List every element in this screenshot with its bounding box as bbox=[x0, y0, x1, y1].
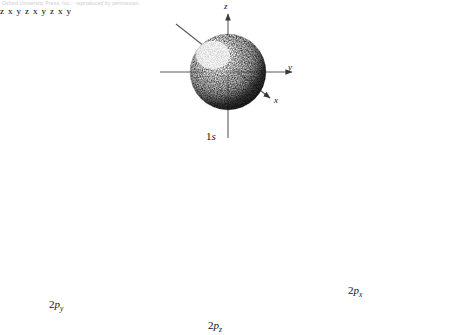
axis-label-x-1s: x bbox=[273, 95, 278, 105]
orbital-label-2pz: 2pz bbox=[208, 320, 222, 334]
orbital-label-1s: 1s bbox=[206, 131, 216, 142]
orbital-label-2py: 2py bbox=[49, 299, 63, 313]
orbital-label-2px: 2px bbox=[348, 285, 362, 299]
orbital-figure: y x z bbox=[0, 0, 450, 335]
electron-cloud-1s bbox=[190, 34, 266, 110]
orbital-1s: y x z bbox=[160, 1, 292, 138]
axis-label-y-1s: y bbox=[287, 62, 292, 72]
axis-label-z-1s: z bbox=[223, 1, 228, 11]
